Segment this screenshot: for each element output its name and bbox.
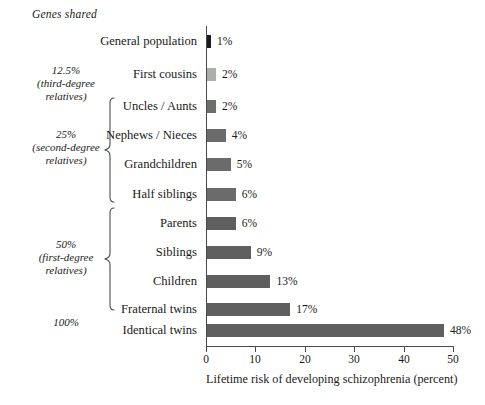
x-tick-mark-0 <box>206 347 207 352</box>
bar-value-children: 13% <box>276 275 297 287</box>
bar-uncles-aunts <box>206 100 216 113</box>
x-tick-label-30: 30 <box>348 353 360 365</box>
bar-half-siblings <box>206 188 236 201</box>
x-tick-label-10: 10 <box>249 353 261 365</box>
category-label-uncles-aunts: Uncles / Aunts <box>123 99 197 114</box>
category-label-fraternal-twins: Fraternal twins <box>121 302 197 317</box>
bar-value-siblings: 9% <box>257 246 272 258</box>
x-tick-label-20: 20 <box>299 353 311 365</box>
category-label-first-cousins: First cousins <box>133 67 197 82</box>
x-axis-title: Lifetime risk of developing schizophreni… <box>206 372 454 387</box>
bar-value-uncles-aunts: 2% <box>222 100 237 112</box>
x-tick-label-50: 50 <box>447 353 459 365</box>
plot-area: 1%2%2%4%5%6%6%9%13%17%48% <box>206 25 456 345</box>
bar-nephews-nieces <box>206 129 226 142</box>
category-label-column: General population First cousins Uncles … <box>0 0 202 405</box>
bar-value-identical-twins: 48% <box>450 324 471 336</box>
x-tick-mark-30 <box>354 347 355 352</box>
x-tick-mark-50 <box>453 347 454 352</box>
bar-parents <box>206 217 236 230</box>
x-tick-label-40: 40 <box>398 353 410 365</box>
bar-fraternal-twins <box>206 303 290 316</box>
category-label-nephews-nieces: Nephews / Nieces <box>106 128 197 143</box>
y-axis-line <box>206 26 207 347</box>
x-tick-mark-10 <box>255 347 256 352</box>
category-label-parents: Parents <box>160 216 197 231</box>
category-label-children: Children <box>153 274 197 289</box>
category-label-grandchildren: Grandchildren <box>124 157 197 172</box>
bar-value-half-siblings: 6% <box>242 188 257 200</box>
x-tick-mark-40 <box>404 347 405 352</box>
category-label-half-siblings: Half siblings <box>132 187 197 202</box>
x-tick-label-0: 0 <box>203 353 209 365</box>
bar-identical-twins <box>206 324 444 337</box>
bar-grandchildren <box>206 158 231 171</box>
bar-children <box>206 275 270 288</box>
schizophrenia-risk-chart: Genes shared 12.5% (third-degree relativ… <box>0 0 485 405</box>
bar-value-grandchildren: 5% <box>237 158 252 170</box>
bar-first-cousins <box>206 68 216 81</box>
category-label-siblings: Siblings <box>156 245 197 260</box>
x-axis-line <box>206 346 454 347</box>
category-label-identical-twins: Identical twins <box>123 323 198 338</box>
bar-value-first-cousins: 2% <box>222 68 237 80</box>
x-tick-mark-20 <box>305 347 306 352</box>
bar-value-general-population: 1% <box>217 35 232 47</box>
bar-siblings <box>206 246 251 259</box>
bar-value-nephews-nieces: 4% <box>232 129 247 141</box>
bar-value-parents: 6% <box>242 217 257 229</box>
bar-value-fraternal-twins: 17% <box>296 303 317 315</box>
category-label-general-population: General population <box>100 34 197 49</box>
